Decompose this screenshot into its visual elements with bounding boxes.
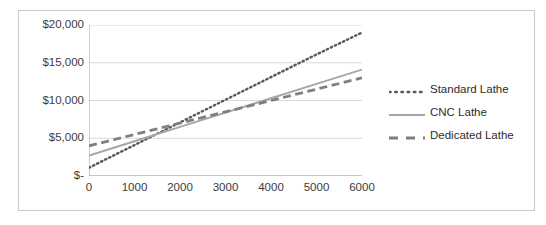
- x-axis-tick-label: 5000: [304, 182, 330, 194]
- series-line-dedicated-lathe: [89, 78, 362, 146]
- y-axis-tick-label: $15,000: [42, 57, 84, 69]
- legend-item-label: CNC Lathe: [430, 107, 487, 119]
- solid-line-swatch: [389, 107, 425, 119]
- y-axis-tick-label: $20,000: [42, 19, 84, 31]
- legend-item[interactable]: Standard Lathe: [389, 78, 539, 101]
- x-axis-tick-label: 1000: [122, 182, 148, 194]
- x-axis-tick-label: 3000: [213, 182, 239, 194]
- legend-item-label: Standard Lathe: [430, 84, 509, 96]
- legend-item[interactable]: CNC Lathe: [389, 101, 539, 124]
- y-axis-tick-labels: $-$5,000$10,000$15,000$20,000: [0, 0, 84, 225]
- y-axis-tick-label: $5,000: [49, 132, 84, 144]
- x-axis-tick-label: 0: [86, 182, 92, 194]
- x-axis-tick-label: 2000: [167, 182, 193, 194]
- chart-container: $-$5,000$10,000$15,000$20,000 0100020003…: [0, 0, 546, 225]
- dashed-line-swatch: [389, 130, 425, 142]
- dotted-line-swatch: [389, 84, 425, 96]
- legend-item[interactable]: Dedicated Lathe: [389, 124, 539, 147]
- legend-item-label: Dedicated Lathe: [430, 130, 514, 142]
- y-axis-tick-label: $-: [74, 170, 84, 182]
- x-axis-tick-label: 4000: [258, 182, 284, 194]
- chart-legend: Standard LatheCNC LatheDedicated Lathe: [389, 78, 539, 147]
- plot-svg: [89, 25, 362, 176]
- x-axis-tick-label: 6000: [349, 182, 375, 194]
- plot-area: [89, 25, 362, 176]
- y-axis-tick-label: $10,000: [42, 95, 84, 107]
- x-axis-tick-labels: 0100020003000400050006000: [89, 182, 362, 200]
